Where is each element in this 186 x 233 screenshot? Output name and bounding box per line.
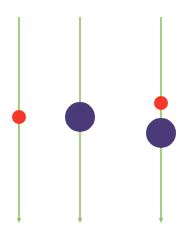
red-dot-3	[154, 96, 168, 110]
diagram-svg	[0, 0, 186, 233]
arrowhead-down-icon	[78, 218, 82, 223]
purple-dot-2	[65, 102, 95, 132]
purple-dot-4	[146, 118, 176, 148]
diagram-canvas	[0, 0, 186, 233]
arrowhead-down-icon	[17, 218, 21, 223]
red-dot-1	[12, 110, 26, 124]
dots	[12, 96, 176, 148]
arrowhead-down-icon	[159, 218, 163, 223]
